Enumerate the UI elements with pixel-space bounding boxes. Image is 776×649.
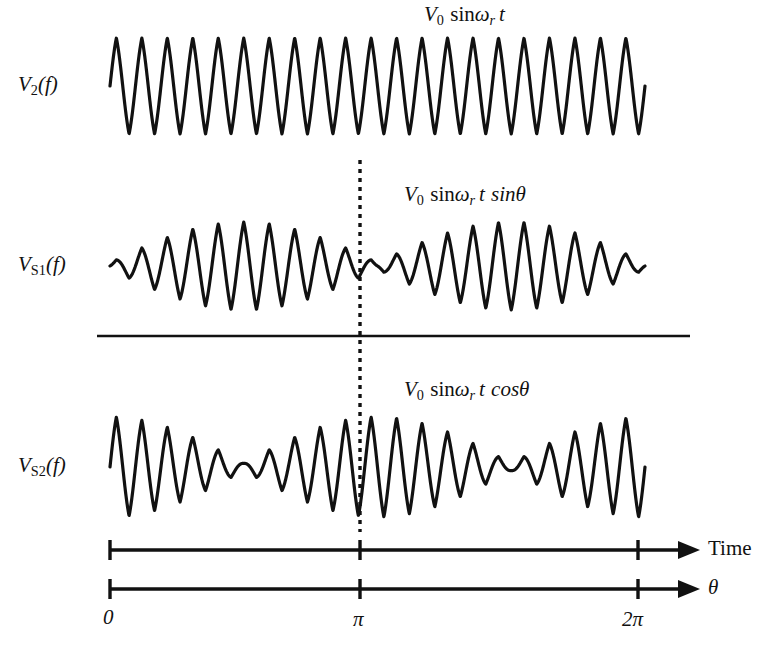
- theta-axis-line: [110, 579, 700, 599]
- waveform-v2: [110, 38, 645, 134]
- formula-v2-vsub: 0: [437, 12, 444, 28]
- axis-label-time: Time: [708, 538, 752, 559]
- waveform-group-vs2: [110, 417, 645, 516]
- waveform-canvas: [0, 0, 776, 649]
- row-label-vs2: VS2(f): [18, 455, 66, 478]
- formula-vs1-vsub: 0: [417, 192, 424, 208]
- formula-v2: V0sinωrt: [424, 4, 505, 27]
- row-label-vs2-tail: (f): [46, 453, 66, 477]
- formula-vs2-vsub: 0: [417, 387, 424, 403]
- formula-vs1-t: t: [479, 182, 485, 206]
- waveform-figure: V2(f) VS1(f) VS2(f) V0sinωrt V0sinωrtsin…: [0, 0, 776, 649]
- formula-vs1-omega: ω: [455, 182, 470, 206]
- formula-vs2-trailing: cosθ: [491, 377, 529, 401]
- tick-label-2pi: 2π: [622, 609, 643, 630]
- row-label-vs1-main: V: [18, 252, 31, 276]
- waveform-vs1: [110, 222, 645, 310]
- formula-vs1-trailing: sinθ: [491, 182, 526, 206]
- formula-vs1-sin: sin: [430, 182, 455, 206]
- axis-arrowhead: [678, 541, 700, 559]
- formula-v2-omegasub: r: [490, 12, 496, 28]
- formula-vs1-omegasub: r: [470, 192, 476, 208]
- formula-vs2-omega: ω: [455, 377, 470, 401]
- formula-vs1-v: V: [404, 182, 417, 206]
- formula-v2-omega: ω: [475, 2, 490, 26]
- row-label-vs2-sub: S2: [31, 463, 46, 479]
- formula-v2-t: t: [499, 2, 505, 26]
- row-label-vs1-sub: S1: [31, 262, 46, 278]
- formula-vs1: V0sinωrtsinθ: [404, 184, 526, 207]
- formula-vs2-t: t: [479, 377, 485, 401]
- tick-label-pi: π: [353, 609, 364, 630]
- axis-arrowhead: [678, 580, 700, 598]
- row-label-vs1: VS1(f): [18, 254, 66, 277]
- row-label-v2-main: V: [18, 72, 31, 96]
- row-label-vs2-main: V: [18, 453, 31, 477]
- formula-vs2-sin: sin: [430, 377, 455, 401]
- waveform-group-vs1: [110, 222, 645, 310]
- formula-v2-v: V: [424, 2, 437, 26]
- row-label-v2-tail: (f): [38, 72, 58, 96]
- formula-vs2-omegasub: r: [470, 387, 476, 403]
- formula-vs2-v: V: [404, 377, 417, 401]
- row-label-v2: V2(f): [18, 74, 58, 97]
- formula-v2-sin: sin: [450, 2, 475, 26]
- waveform-group-v2: [110, 38, 645, 134]
- row-label-vs1-tail: (f): [46, 252, 66, 276]
- axis-label-theta: θ: [708, 577, 718, 598]
- waveform-vs2: [110, 417, 645, 516]
- formula-vs2: V0sinωrtcosθ: [404, 379, 529, 402]
- tick-label-0: 0: [103, 607, 114, 628]
- time-axis-line: [110, 540, 700, 560]
- row-label-v2-sub: 2: [31, 82, 38, 98]
